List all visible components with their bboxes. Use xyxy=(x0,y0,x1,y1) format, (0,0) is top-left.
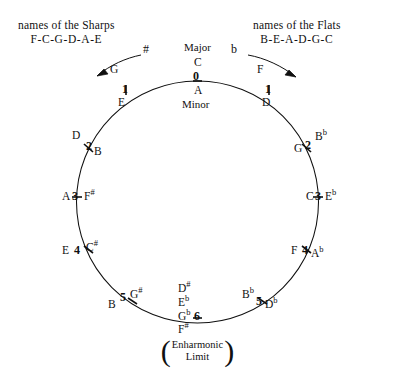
sharps-5-minor-accidental: # xyxy=(138,285,142,295)
sharps-2-major: D xyxy=(72,129,80,141)
sharps-3-minor: F# xyxy=(84,190,95,202)
flats-4-minor-accidental: b xyxy=(319,244,323,254)
major-label: Major xyxy=(184,41,211,54)
flats-5-minor: Db xyxy=(265,298,278,310)
sharps-4-minor-letter: C xyxy=(86,241,94,253)
flats-4-count: 4 xyxy=(302,244,308,256)
caption-text: Enharmonic Limit xyxy=(171,339,224,364)
flats-4-minor: Ab xyxy=(311,247,324,259)
bottom-flat-major-letter: E xyxy=(178,296,185,308)
bottom-sharp-minor: F# xyxy=(178,323,189,335)
sharps-2-count: 2 xyxy=(86,140,92,152)
flats-3-minor-letter: E xyxy=(325,190,332,202)
sharps-4-minor: C# xyxy=(86,241,98,253)
sharps-2-minor: B xyxy=(94,145,102,157)
caption-line1: Enharmonic xyxy=(172,339,223,352)
enharmonic-limit-caption: ( Enharmonic Limit ) xyxy=(155,336,240,366)
flats-arrowhead xyxy=(285,70,296,77)
flats-5-major-accidental: b xyxy=(250,285,254,295)
sharps-5-major: B xyxy=(108,298,116,310)
sharps-3-count: 3 xyxy=(72,190,78,202)
sharps-5-count: 5 xyxy=(120,291,126,303)
caption-line2: Limit xyxy=(186,351,209,364)
flats-2-minor-accidental: b xyxy=(323,127,327,137)
caption-paren-open: ( xyxy=(161,336,171,366)
circle-of-fifths-diagram: names of the Sharps F-C-G-D-A-E names of… xyxy=(0,0,395,372)
flats-5-major-letter: B xyxy=(242,288,250,300)
sharps-4-count: 4 xyxy=(74,244,80,256)
flats-4-major: F xyxy=(291,244,297,256)
sharps-3-major: A xyxy=(62,190,70,202)
sharps-1-minor: E xyxy=(118,96,125,108)
bottom-sharp-minor-accidental: # xyxy=(184,320,188,330)
center-major-key: C xyxy=(194,56,202,68)
sharps-5-minor: G# xyxy=(130,288,143,300)
flats-1-major: F xyxy=(257,63,263,75)
flats-5-minor-accidental: b xyxy=(273,295,277,305)
flats-5-count: 5 xyxy=(256,295,262,307)
minor-label: Minor xyxy=(182,98,210,111)
flats-3-count: 3 xyxy=(315,190,321,202)
sharps-3-minor-accidental: # xyxy=(90,187,94,197)
bottom-flat-major-accidental: b xyxy=(185,293,189,303)
center-minor-key: A xyxy=(194,84,202,96)
flats-2-major: G xyxy=(294,142,302,154)
fifths-circle xyxy=(77,81,319,323)
center-accidental-count: 0 xyxy=(193,70,199,82)
bottom-flat-minor-accidental: b xyxy=(186,307,190,317)
sharps-4-major: E xyxy=(62,244,69,256)
sharps-4-minor-accidental: # xyxy=(94,238,98,248)
flats-3-major: C xyxy=(306,190,314,202)
flats-1-minor: D xyxy=(262,96,270,108)
flats-2-minor-letter: B xyxy=(315,130,323,142)
bottom-count: 6 xyxy=(194,310,200,322)
flats-5-major: Bb xyxy=(242,288,254,300)
flats-2-minor: Bb xyxy=(315,130,327,142)
caption-paren-close: ) xyxy=(224,336,234,366)
circle-ticks xyxy=(72,81,323,318)
sharps-arrowhead xyxy=(97,69,108,76)
sharps-1-major: G xyxy=(110,63,118,75)
flats-3-minor: Eb xyxy=(325,190,336,202)
flats-3-minor-accidental: b xyxy=(332,187,336,197)
flats-2-count: 2 xyxy=(305,139,311,151)
sharps-1-count: 1 xyxy=(122,83,128,95)
bottom-sharp-major-accidental: # xyxy=(186,279,190,289)
flats-1-count: 1 xyxy=(265,83,271,95)
